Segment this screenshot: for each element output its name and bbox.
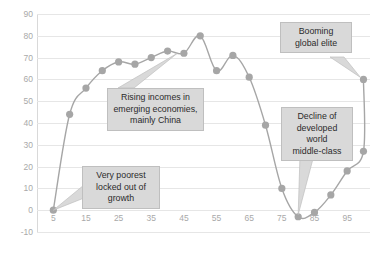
annotation-line: growth [88, 193, 154, 205]
annotation-line: Decline of [287, 111, 347, 123]
annotation-line: mainly China [113, 115, 198, 127]
annotation-line: middle-class [287, 146, 347, 158]
annotation-line: locked out of [88, 182, 154, 194]
annotation-line: emerging economies, [113, 104, 198, 116]
annotation-very-poorest: Very poorest locked out of growth [82, 166, 160, 209]
annotation-rising-incomes: Rising incomes in emerging economies, ma… [107, 88, 204, 131]
annotation-line: global elite [286, 38, 346, 50]
annotation-line: Rising incomes in [113, 92, 198, 104]
annotation-line: developed [287, 123, 347, 135]
annotation-line: world [287, 134, 347, 146]
annotation-line: Very poorest [88, 170, 154, 182]
annotation-booming-elite: Booming global elite [280, 22, 352, 53]
chart-root: Real income growth, % 908070605040302010… [0, 0, 373, 254]
annotation-line: Booming [286, 26, 346, 38]
annotation-decline-middle-class: Decline of developed world middle-class [281, 107, 353, 161]
